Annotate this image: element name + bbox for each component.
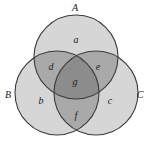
region-label-a: a xyxy=(74,34,79,45)
region-label-g: g xyxy=(73,76,78,87)
region-label-c: c xyxy=(108,95,113,106)
set-label-a: A xyxy=(71,2,79,13)
venn-diagram: A B C a b c d e f g xyxy=(0,0,154,146)
set-label-b: B xyxy=(5,89,11,100)
set-label-c: C xyxy=(137,89,144,100)
region-label-e: e xyxy=(96,61,101,72)
region-label-b: b xyxy=(39,95,44,106)
